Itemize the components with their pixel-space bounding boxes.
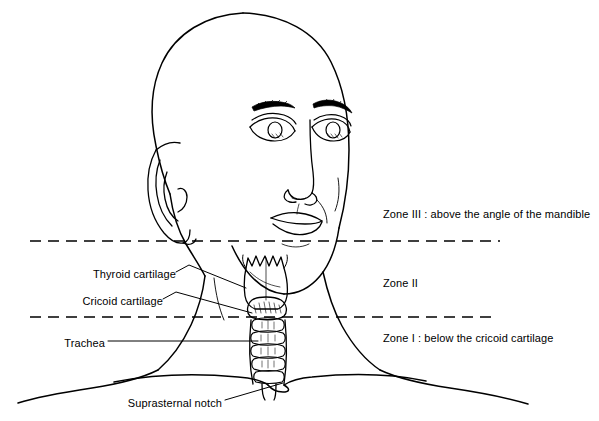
figure-canvas: Zone III : above the angle of the mandib… [0,0,599,421]
zone-2-label: Zone II [383,277,418,290]
zone-1-label: Zone I : below the cricoid cartilage [383,332,554,345]
thyroid-cartilage-label: Thyroid cartilage [0,268,176,281]
right-iris [326,122,340,138]
trachea-label: Trachea [0,337,105,350]
cricoid-cartilage-label: Cricoid cartilage [0,295,163,308]
suprasternal-notch-label: Suprasternal notch [0,397,222,410]
zone-3-label: Zone III : above the angle of the mandib… [383,208,590,221]
